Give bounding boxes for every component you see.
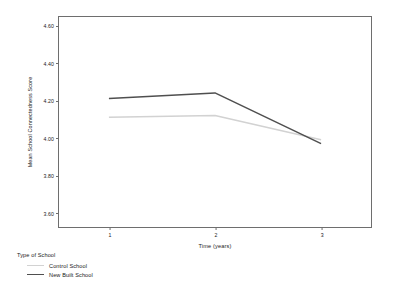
legend-entries: Control SchoolNew Built School [17,261,177,279]
y-axis-tick-label: 4.60 [44,23,57,29]
y-axis-tick-label: 3.60 [44,211,57,217]
y-axis-tick-label: 3.80 [44,173,57,179]
y-axis-title: Mean School Connectedness Score [26,16,35,228]
legend-item[interactable]: Control School [17,261,177,270]
y-axis-tick: 4.00 [44,136,60,142]
legend-item-label: Control School [49,263,87,269]
series-lines [58,16,372,228]
y-axis-tick: 4.40 [44,61,60,67]
y-axis-tick-label: 4.40 [44,61,57,67]
x-axis-tick: 1 [108,227,111,238]
legend-color-swatch [27,265,44,267]
x-axis-tick-label: 3 [321,232,324,238]
y-axis-tick: 3.80 [44,173,60,179]
legend-title: Type of School [17,252,177,258]
y-axis-tick: 4.20 [44,98,60,104]
y-axis-tick-label: 4.20 [44,98,57,104]
y-axis-tick-label: 4.00 [44,136,57,142]
line-chart: Mean School Connectedness Score 4.604.40… [0,0,398,299]
x-axis-tick: 2 [215,227,218,238]
y-axis-tick: 4.60 [44,23,60,29]
x-axis-title: Time (years) [58,243,372,249]
y-axis-title-text: Mean School Connectedness Score [28,77,34,168]
legend-color-swatch [27,274,44,276]
series-line [109,93,321,144]
legend-item[interactable]: New Built School [17,270,177,279]
x-axis-tick-label: 2 [215,232,218,238]
x-axis-tick: 3 [321,227,324,238]
legend-item-label: New Built School [49,272,93,278]
legend: Type of School Control SchoolNew Built S… [17,252,177,279]
x-axis-tick-label: 1 [108,232,111,238]
y-axis-tick: 3.60 [44,211,60,217]
